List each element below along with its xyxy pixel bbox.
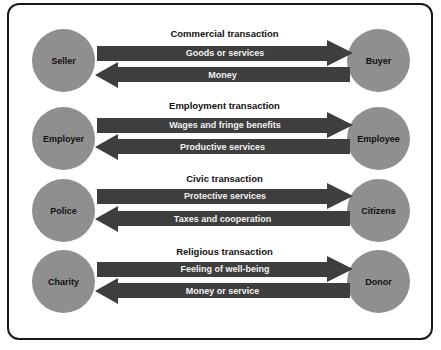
left-party-circle: Seller: [32, 29, 95, 92]
left-flow-label: Money: [95, 69, 350, 81]
right-flow-label: Feeling of well-being: [97, 263, 353, 275]
right-party-circle: Employee: [347, 107, 410, 170]
left-arrow: Money or service: [95, 278, 350, 304]
left-party-label: Police: [50, 206, 77, 216]
right-party-circle: Buyer: [347, 29, 410, 92]
left-flow-label: Productive services: [95, 141, 350, 153]
left-arrow: Taxes and cooperation: [95, 206, 350, 232]
left-party-circle: Charity: [32, 250, 95, 313]
right-party-label: Citizens: [361, 206, 396, 216]
right-party-label: Employee: [357, 134, 400, 144]
left-party-label: Seller: [51, 56, 76, 66]
left-flow-label: Money or service: [95, 285, 350, 297]
right-flow-label: Wages and fringe benefits: [97, 119, 353, 131]
left-party-label: Charity: [48, 277, 79, 287]
right-party-circle: Citizens: [347, 179, 410, 242]
right-party-label: Buyer: [366, 56, 392, 66]
left-arrow: Money: [95, 62, 350, 88]
right-party-circle: Donor: [347, 250, 410, 313]
right-party-label: Donor: [365, 277, 392, 287]
left-party-circle: Police: [32, 179, 95, 242]
row-title: Employment transaction: [97, 100, 352, 112]
left-arrow: Productive services: [95, 134, 350, 160]
row-title: Commercial transaction: [97, 28, 352, 40]
left-flow-label: Taxes and cooperation: [95, 213, 350, 225]
left-party-label: Employer: [43, 134, 84, 144]
right-flow-label: Goods or services: [97, 47, 353, 59]
right-flow-label: Protective services: [97, 190, 353, 202]
left-party-circle: Employer: [32, 107, 95, 170]
